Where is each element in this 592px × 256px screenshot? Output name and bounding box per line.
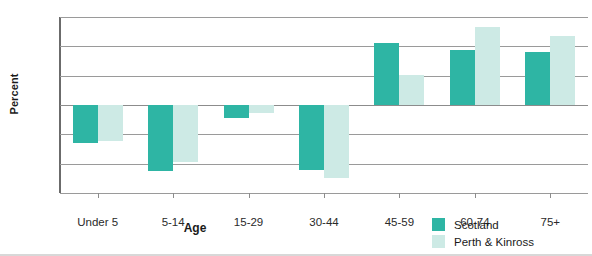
bar-scotland <box>73 105 98 143</box>
bar-group <box>299 17 349 193</box>
y-axis-title: Percent <box>8 49 20 139</box>
x-tick-mark <box>324 193 325 198</box>
bar-group <box>450 17 500 193</box>
x-tick-mark <box>173 193 174 198</box>
x-tick-mark <box>249 193 250 198</box>
bar-perth-kinross <box>475 27 500 105</box>
legend-label: Perth & Kinross <box>454 236 534 248</box>
bar-chart: Percent 3020100-10-20-30 Under 55-1415-2… <box>0 0 592 256</box>
bar-perth-kinross <box>98 105 123 141</box>
bar-group <box>148 17 198 193</box>
bar-perth-kinross <box>249 105 274 113</box>
legend-item[interactable]: Perth & Kinross <box>432 233 534 250</box>
bar-scotland <box>374 43 399 105</box>
x-tick-mark <box>399 193 400 198</box>
bar-perth-kinross <box>173 105 198 162</box>
plot-area: 3020100-10-20-30 Under 55-1415-2930-4445… <box>60 17 588 193</box>
bar-scotland <box>450 50 475 105</box>
legend-item[interactable]: Scotland <box>432 216 534 233</box>
bar-group <box>224 17 274 193</box>
bar-scotland <box>299 105 324 170</box>
bar-perth-kinross <box>550 36 575 105</box>
bar-perth-kinross <box>324 105 349 178</box>
bar-group <box>525 17 575 193</box>
bar-scotland <box>224 105 249 118</box>
chart-legend: ScotlandPerth & Kinross <box>432 216 534 250</box>
legend-swatch-icon <box>432 218 445 231</box>
x-axis-title: Age <box>0 221 390 235</box>
x-tick-label: 75+ <box>541 216 561 228</box>
x-tick-mark <box>550 193 551 198</box>
bar-scotland <box>525 52 550 105</box>
x-tick-mark <box>98 193 99 198</box>
legend-swatch-icon <box>432 235 445 248</box>
bar-group <box>374 17 424 193</box>
x-tick-mark <box>475 193 476 198</box>
bar-group <box>73 17 123 193</box>
bar-perth-kinross <box>399 75 424 105</box>
legend-label: Scotland <box>454 219 499 231</box>
bar-scotland <box>148 105 173 171</box>
